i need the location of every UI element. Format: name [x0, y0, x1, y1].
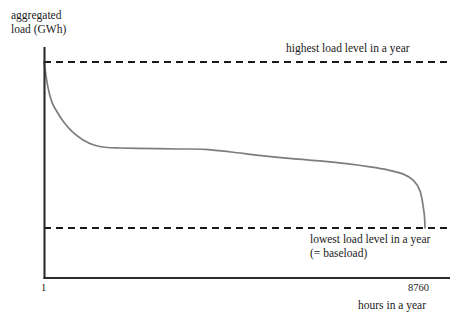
y-axis-label-line-1: aggregated: [11, 9, 66, 23]
x-axis-label: hours in a year: [358, 299, 426, 313]
y-axis-label-line-2: load (GWh): [11, 23, 66, 37]
x-axis-tick-end: 8760: [408, 281, 429, 295]
lowest-load-level-annotation-line-1: lowest load level in a year: [310, 233, 430, 247]
y-axis-label: aggregatedload (GWh): [11, 9, 66, 36]
highest-load-level-annotation: highest load level in a year: [286, 42, 410, 56]
lowest-load-level-annotation-line-2: (= baseload): [310, 247, 430, 261]
lowest-load-level-annotation: lowest load level in a year(= baseload): [310, 233, 430, 260]
x-axis-tick-start: 1: [41, 281, 46, 295]
